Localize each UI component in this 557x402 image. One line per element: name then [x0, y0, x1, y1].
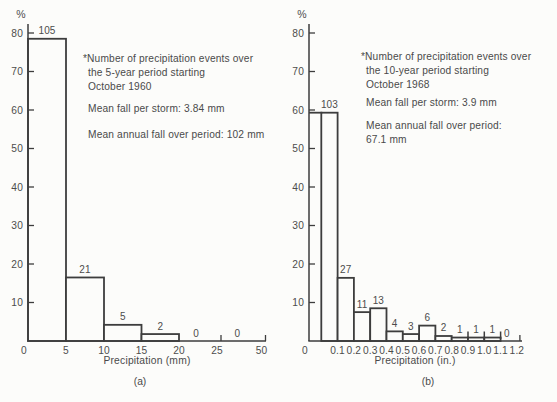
bar-10-15: [104, 325, 142, 341]
bar-0-0.1: [321, 113, 337, 341]
panel-a-x-axis-title: Precipitation (mm): [47, 355, 247, 366]
mean-annual-line: 67.1 mm: [366, 133, 502, 147]
svg-text:80: 80: [292, 28, 304, 39]
note-line: *Number of precipitation events over: [361, 50, 531, 64]
svg-text:40: 40: [292, 182, 304, 193]
bar-0.7-0.8: [435, 336, 451, 341]
svg-text:%: %: [297, 8, 307, 20]
svg-text:2: 2: [441, 322, 447, 333]
svg-text:4: 4: [392, 318, 398, 329]
bar-0.3-0.4: [370, 308, 386, 341]
svg-text:13: 13: [373, 295, 385, 306]
svg-text:50: 50: [256, 345, 268, 356]
bar-0.1-0.2: [338, 278, 354, 341]
svg-text:10: 10: [11, 297, 23, 308]
svg-text:1: 1: [490, 324, 496, 335]
svg-text:2: 2: [157, 321, 163, 332]
panel-b-y-ticks: 1020304050607080%0: [292, 8, 315, 356]
svg-text:30: 30: [11, 220, 23, 231]
note-line: *Number of precipitation events over: [83, 52, 253, 66]
svg-text:0: 0: [504, 328, 510, 339]
note-line: the 5-year period starting: [83, 66, 253, 80]
panel-b-mean-fall: Mean fall per storm: 3.9 mm: [366, 96, 497, 110]
bar-0.6-0.7: [419, 326, 435, 341]
panel-b-mean-annual: Mean annual fall over period: 67.1 mm: [366, 119, 502, 147]
svg-text:70: 70: [292, 66, 304, 77]
note-line: the 10-year period starting: [361, 64, 531, 78]
svg-text:0: 0: [21, 345, 27, 356]
svg-text:1: 1: [457, 324, 463, 335]
svg-text:10: 10: [292, 297, 304, 308]
svg-text:27: 27: [340, 264, 352, 275]
panel-a-mean-fall: Mean fall per storm: 3.84 mm: [88, 102, 225, 116]
svg-text:20: 20: [292, 259, 304, 270]
bar-0.5-0.6: [403, 334, 419, 341]
svg-text:50: 50: [11, 143, 23, 154]
mean-annual-line: Mean annual fall over period:: [366, 119, 502, 133]
svg-text:50: 50: [292, 143, 304, 154]
svg-text:103: 103: [321, 99, 338, 110]
svg-text:6: 6: [424, 312, 430, 323]
svg-text:0: 0: [302, 345, 308, 356]
bar-0-5: [28, 39, 66, 341]
note-line: October 1968: [361, 78, 531, 92]
svg-text:40: 40: [11, 182, 23, 193]
bar-0.4-0.5: [387, 331, 403, 341]
panel-a-note: *Number of precipitation events over the…: [83, 52, 253, 94]
panel-a-mean-annual: Mean annual fall over period: 102 mm: [88, 128, 264, 142]
svg-text:70: 70: [11, 66, 23, 77]
bar-0.2-0.3: [354, 312, 370, 341]
svg-text:105: 105: [38, 25, 55, 36]
panel-b-caption: (b): [328, 376, 528, 387]
bar-5-10: [66, 277, 104, 341]
panel-b-x-axis-title: Precipitation (in.): [315, 355, 515, 366]
svg-text:80: 80: [11, 28, 23, 39]
svg-text:11: 11: [357, 299, 368, 310]
svg-text:60: 60: [11, 105, 23, 116]
svg-text:0: 0: [193, 328, 199, 339]
panel-a-caption: (a): [40, 376, 240, 387]
svg-text:5: 5: [120, 311, 126, 322]
bar-15-20: [142, 334, 180, 341]
note-line: October 1960: [83, 80, 253, 94]
svg-text:3: 3: [408, 321, 414, 332]
svg-text:20: 20: [11, 259, 23, 270]
svg-text:0: 0: [234, 328, 240, 339]
precipitation-histogram-figure: 1052152001020304050607080%05101520255010…: [0, 0, 557, 402]
panel-b-note: *Number of precipitation events over the…: [361, 50, 531, 92]
svg-text:1: 1: [473, 324, 479, 335]
svg-text:60: 60: [292, 105, 304, 116]
svg-text:30: 30: [292, 220, 304, 231]
svg-text:%: %: [16, 8, 26, 20]
svg-text:21: 21: [79, 264, 91, 275]
